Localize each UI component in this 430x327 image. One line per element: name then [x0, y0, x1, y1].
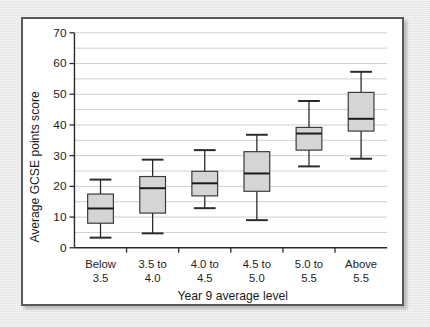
box-iqr [140, 177, 166, 214]
x-category-label: 5.5 [301, 272, 317, 284]
box-plot-item [296, 101, 322, 166]
y-tick-label: 40 [53, 118, 67, 132]
x-category-label: 5.0 to [295, 258, 323, 270]
box-iqr [244, 152, 270, 192]
y-axis-tick-labels: 010203040506070 [53, 26, 67, 255]
x-category-label: Above [345, 258, 377, 270]
y-axis-ticks [70, 33, 75, 248]
boxplot-chart: 010203040506070 Below3.53.5 to4.04.0 to4… [23, 19, 402, 304]
y-tick-label: 20 [53, 179, 67, 193]
y-tick-label: 10 [53, 210, 67, 224]
x-category-label: 4.0 [145, 272, 161, 284]
box-iqr [296, 127, 322, 150]
y-tick-label: 60 [53, 56, 67, 70]
x-axis-title: Year 9 average level [178, 289, 288, 303]
y-tick-label: 30 [53, 149, 67, 163]
gridlines [74, 33, 387, 233]
box-plot-series [88, 72, 374, 238]
x-category-label: 4.5 [197, 272, 213, 284]
y-tick-label: 0 [60, 241, 67, 255]
x-axis-category-labels: Below3.53.5 to4.04.0 to4.54.5 to5.05.0 t… [85, 258, 377, 285]
x-category-label: 4.0 to [191, 258, 219, 270]
figure-frame: 010203040506070 Below3.53.5 to4.04.0 to4… [21, 17, 404, 306]
box-plot-item [244, 135, 270, 220]
x-category-label: Below [85, 258, 117, 270]
x-category-label: 4.5 to [243, 258, 271, 270]
x-category-label: 5.0 [249, 272, 265, 284]
box-plot-item [88, 180, 114, 238]
x-axis-ticks [127, 248, 335, 253]
box-plot-item [192, 150, 218, 208]
x-category-label: 5.5 [353, 272, 369, 284]
x-category-label: 3.5 [93, 272, 109, 284]
y-tick-label: 70 [53, 26, 67, 40]
y-axis-title: Average GCSE points score [28, 91, 42, 243]
box-iqr [348, 92, 374, 131]
y-tick-label: 50 [53, 87, 67, 101]
x-category-label: 3.5 to [139, 258, 167, 270]
box-plot-item [348, 72, 374, 159]
